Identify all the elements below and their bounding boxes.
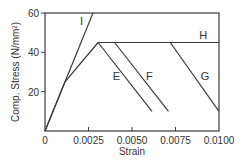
curve-base (45, 43, 98, 132)
y-axis-ticks: 204060 (28, 8, 45, 98)
x-tick-label: 0.0075 (160, 135, 191, 146)
plot-frame (45, 13, 219, 131)
curve-label-h: H (199, 29, 207, 41)
curve-g (170, 43, 219, 112)
x-tick-label: 0 (42, 135, 48, 146)
y-axis-label-text: Comp. Stress (N/mm²) (10, 22, 21, 122)
y-tick-label: 40 (28, 47, 40, 58)
x-tick-label: 0.0025 (73, 135, 104, 146)
stress-strain-chart: 00.00250.00500.00750.0100 204060 IHEFG S… (0, 0, 244, 167)
plot-border (45, 13, 219, 131)
x-axis-label: Strain (119, 146, 145, 157)
x-tick-label: 0.0050 (117, 135, 148, 146)
curve-f (115, 43, 169, 112)
curve-labels: IHEFG (80, 15, 209, 82)
curve-label-e: E (113, 70, 120, 82)
y-axis-label: Comp. Stress (N/mm²) (10, 22, 21, 122)
curve-label-i: I (80, 15, 83, 27)
y-tick-label: 60 (28, 8, 40, 19)
x-tick-label: 0.0100 (204, 135, 235, 146)
curve-label-f: F (146, 70, 153, 82)
x-axis-ticks: 00.00250.00500.00750.0100 (42, 127, 235, 146)
curve-label-g: G (201, 70, 210, 82)
curves (45, 13, 219, 131)
curve-e (98, 43, 152, 112)
y-tick-label: 20 (28, 87, 40, 98)
